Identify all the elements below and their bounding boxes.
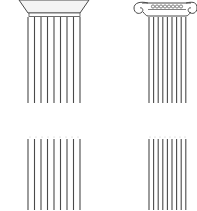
doric-abacus-band (29, 13, 80, 17)
ionic-shaft-fragment (149, 137, 186, 211)
doric-fragment-flutes (28, 139, 80, 210)
doric-shaft-flutes (28, 17, 80, 103)
ionic-volute-right (186, 2, 197, 13)
doric-column (19, 0, 89, 103)
column-diagram (0, 0, 197, 210)
ionic-volute-left (134, 2, 148, 13)
ionic-fragment-flutes (149, 139, 186, 210)
doric-capital-echinus (19, 0, 89, 13)
ionic-column (134, 2, 197, 103)
ionic-capital (134, 2, 197, 16)
fragment-top-dots (30, 137, 79, 138)
doric-shaft-fragment (28, 137, 80, 211)
ionic-shaft-flutes (149, 17, 186, 103)
egg-and-dart-molding (151, 5, 182, 8)
fragment-top-dots (150, 137, 186, 138)
